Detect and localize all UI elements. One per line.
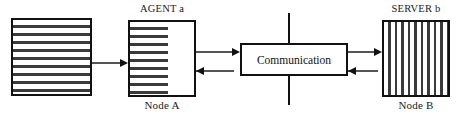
diagram-canvas: AGENT a Node A Communication SERVER b No… bbox=[0, 0, 467, 117]
horizontal-stripes-pattern bbox=[13, 20, 90, 94]
data-block bbox=[11, 18, 92, 96]
arrowhead-right-icon bbox=[120, 59, 128, 67]
arrowhead-right-icon bbox=[374, 48, 382, 56]
arrowhead-left-icon bbox=[196, 67, 204, 75]
node-b-label: Node B bbox=[382, 99, 450, 111]
connector-data-to-agent bbox=[92, 62, 122, 64]
node-a-label: Node A bbox=[128, 99, 196, 111]
arrowhead-left-icon bbox=[348, 67, 356, 75]
communication-label: Communication bbox=[257, 54, 331, 66]
agent-box bbox=[128, 20, 196, 97]
agent-top-label: AGENT a bbox=[128, 3, 196, 14]
arrowhead-right-icon bbox=[232, 48, 240, 56]
vertical-stripes-pattern bbox=[384, 22, 448, 95]
connector-agent-to-communication bbox=[196, 51, 234, 53]
server-top-label: SERVER b bbox=[382, 3, 450, 14]
communication-box: Communication bbox=[240, 43, 348, 76]
server-box bbox=[382, 20, 450, 97]
horizontal-stripes-pattern bbox=[130, 22, 168, 95]
